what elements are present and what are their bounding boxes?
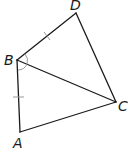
angle-arc-dbc [25, 54, 28, 64]
diagram-canvas: D B C A [0, 0, 133, 154]
label-b: B [4, 52, 14, 68]
label-c: C [118, 98, 128, 114]
segment-ca [20, 102, 116, 132]
segment-bd [17, 13, 76, 60]
label-d: D [70, 0, 81, 13]
label-a: A [12, 135, 23, 151]
segment-ab [17, 60, 20, 132]
angle-arc-cba [18, 64, 27, 70]
tick-mark-bd [44, 32, 50, 40]
segment-dc [76, 13, 116, 102]
segment-bc [17, 60, 116, 102]
